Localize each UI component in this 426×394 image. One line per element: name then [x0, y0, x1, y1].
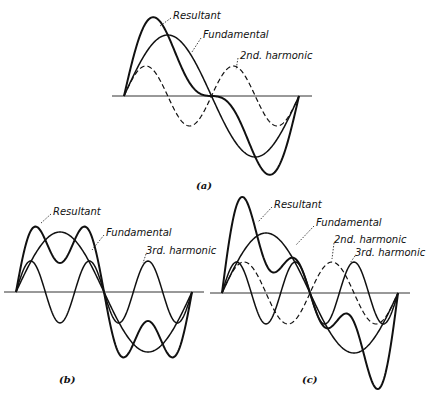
2nd-harmonic-label: 2nd. harmonic: [334, 234, 407, 245]
leader-line: [258, 207, 272, 222]
caption-c: (c): [302, 374, 318, 385]
caption-b: (b): [59, 374, 76, 385]
panel-c: ResultantFundamental2nd. harmonic3rd. ha…: [210, 197, 426, 389]
leader-line: [332, 243, 334, 259]
3rd-harmonic-label: 3rd. harmonic: [355, 247, 426, 258]
panel-b: ResultantFundamental3rd. harmonic: [4, 206, 217, 357]
harmonics-figure: ResultantFundamental2nd. harmonic Result…: [0, 0, 426, 394]
resultant-label: Resultant: [53, 206, 102, 217]
leader-line: [40, 214, 51, 224]
3rd-harmonic-label: 3rd. harmonic: [146, 245, 217, 256]
resultant-label: Resultant: [274, 199, 323, 210]
fundamental-label: Fundamental: [203, 29, 269, 40]
resultant-label: Resultant: [173, 10, 222, 21]
fundamental-label: Fundamental: [106, 227, 172, 238]
leader-line: [296, 226, 314, 245]
panel-a: ResultantFundamental2nd. harmonic: [112, 10, 313, 175]
2nd-harmonic-label: 2nd. harmonic: [240, 50, 313, 61]
leader-line: [192, 38, 201, 52]
fundamental-label: Fundamental: [316, 217, 382, 228]
caption-a: (a): [196, 180, 212, 191]
leader-line: [236, 58, 238, 70]
